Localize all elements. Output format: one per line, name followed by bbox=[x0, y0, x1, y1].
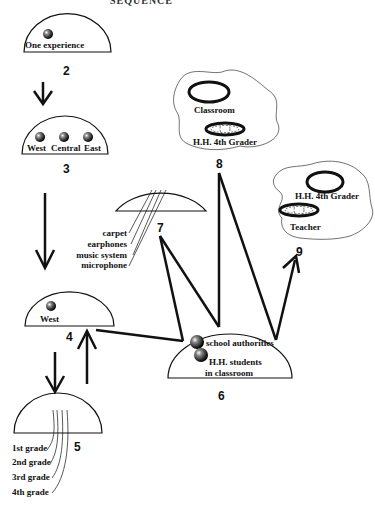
sphere-icon bbox=[83, 132, 93, 142]
line-6-to-9 bbox=[276, 260, 295, 340]
node-3-label-west: West bbox=[27, 143, 46, 153]
node-5-label-4th: 4th grade bbox=[12, 487, 49, 497]
sequence-diagram: SEQUENCE One experience 2 West Central E… bbox=[0, 0, 375, 512]
diagram-title: SEQUENCE bbox=[110, 0, 173, 6]
node-2: One experience 2 bbox=[24, 14, 111, 78]
grader-ellipse-icon bbox=[307, 172, 343, 192]
sphere-icon bbox=[35, 132, 45, 142]
arrowhead-to-9 bbox=[283, 256, 299, 273]
arrow-4-to-5 bbox=[46, 352, 64, 392]
sphere-icon bbox=[59, 132, 69, 142]
node-3-label-central: Central bbox=[51, 143, 81, 153]
node-6: school authorities H.H. students in clas… bbox=[168, 334, 292, 403]
node-6-label-classroom: in classroom bbox=[205, 368, 254, 378]
sphere-icon bbox=[194, 348, 208, 362]
sphere-icon bbox=[43, 29, 53, 39]
classroom-ellipse-icon bbox=[189, 82, 229, 102]
node-8-label-classroom: Classroom bbox=[194, 105, 235, 115]
node-6-label-authorities: school authorities bbox=[206, 338, 274, 348]
node-3-label-east: East bbox=[84, 143, 101, 153]
line-4-to-6 bbox=[96, 330, 183, 341]
node-7-label-microphone: microphone bbox=[81, 260, 127, 270]
node-5-label-2nd: 2nd grade bbox=[12, 457, 51, 467]
node-6-number: 6 bbox=[218, 389, 225, 403]
node-7-label-music-system: music system bbox=[76, 250, 127, 260]
node-9-label-grader: H.H. 4th Grader bbox=[295, 191, 359, 201]
sphere-icon bbox=[190, 335, 204, 349]
node-9-label-teacher: Teacher bbox=[290, 222, 321, 232]
node-5-label-3rd: 3rd grade bbox=[12, 472, 50, 482]
semicircle-shape bbox=[25, 292, 114, 326]
teacher-ellipse-icon bbox=[280, 204, 318, 216]
node-9: H.H. 4th Grader Teacher 9 bbox=[273, 161, 372, 259]
node-5-number: 5 bbox=[74, 440, 81, 454]
arrow-5-to-4 bbox=[78, 331, 96, 384]
node-4-label: West bbox=[40, 314, 59, 324]
sphere-icon bbox=[46, 301, 56, 311]
node-7-number: 7 bbox=[157, 221, 164, 235]
node-4: West 4 bbox=[25, 292, 114, 344]
node-5-label-1st: 1st grade bbox=[12, 443, 47, 453]
node-4-number: 4 bbox=[66, 330, 73, 344]
node-8-number: 8 bbox=[216, 157, 223, 171]
node-8: Classroom H.H. 4th Grader 8 bbox=[174, 70, 279, 171]
node-3-number: 3 bbox=[63, 162, 70, 176]
grader-ellipse-icon bbox=[206, 123, 244, 135]
node-7-label-earphones: earphones bbox=[87, 239, 127, 249]
arrow-3-to-4 bbox=[36, 193, 54, 268]
node-2-label: One experience bbox=[25, 40, 84, 50]
node-6-label-students: H.H. students bbox=[209, 357, 262, 367]
arrow-2-to-3 bbox=[34, 82, 52, 104]
node-5: 1st grade 2nd grade 3rd grade 4th grade … bbox=[12, 393, 102, 497]
node-8-label-grader: H.H. 4th Grader bbox=[193, 137, 257, 147]
node-7: carpet earphones music system microphone… bbox=[76, 190, 206, 270]
node-2-number: 2 bbox=[63, 64, 70, 78]
node-7-label-carpet: carpet bbox=[103, 228, 128, 238]
line-8-to-6-b bbox=[219, 173, 276, 340]
node-3: West Central East 3 bbox=[22, 116, 108, 176]
semicircle-shape bbox=[116, 193, 206, 211]
